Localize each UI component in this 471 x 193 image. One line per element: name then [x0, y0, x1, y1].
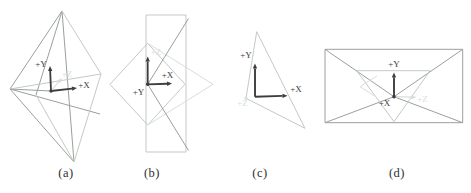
origin-dot	[146, 83, 150, 87]
caption-b: (b)	[122, 166, 182, 181]
panel-b: +X+Y+Z	[110, 15, 213, 152]
axis-arrowhead-icon	[167, 82, 172, 86]
wire-line	[148, 84, 213, 125]
panel-a: +Y+X+Z	[10, 11, 101, 162]
wire-line	[325, 49, 394, 96]
origin-dot	[392, 95, 396, 99]
axis-arrowhead-icon	[282, 94, 287, 98]
figure-canvas: +Y+X+Z +X+Y+Z +Y+X+Z +Y+X+Z (a) (b) (c) …	[0, 0, 471, 193]
axis-arrowhead-icon	[392, 73, 396, 78]
axis-label-x: +X	[290, 84, 302, 94]
wire-line	[10, 89, 74, 162]
axis-arrow-shaft	[255, 96, 283, 97]
axis-label-y: +Y	[388, 59, 400, 69]
axis-label-y: +Y	[35, 59, 47, 69]
panel-c: +Y+X+Z	[237, 32, 305, 129]
axis-arrow-shaft	[50, 71, 51, 91]
axis-label-z: +Z	[237, 98, 248, 108]
wire-line	[62, 11, 101, 74]
wire-line	[257, 32, 305, 129]
axis-arrowhead-icon	[411, 95, 416, 99]
axis-label-x: +X	[78, 80, 90, 90]
axis-arrowhead-icon	[253, 64, 257, 69]
wire-line	[10, 11, 62, 89]
axis-label-z: +Z	[151, 47, 162, 57]
caption-c: (c)	[230, 166, 290, 181]
wire-line	[360, 87, 377, 98]
wire-line	[62, 11, 74, 162]
wire-line	[246, 98, 305, 128]
axis-label-y: +Y	[240, 50, 252, 60]
subfigure-graphics: +Y+X+Z +X+Y+Z +Y+X+Z +Y+X+Z	[0, 0, 471, 193]
axis-label-y: +Y	[133, 87, 145, 97]
caption-a: (a)	[36, 166, 96, 181]
axis-arrow-shaft	[51, 89, 72, 91]
axis-label-z: +Z	[417, 94, 428, 104]
caption-d: (d)	[367, 166, 427, 181]
wire-line	[10, 89, 100, 114]
axis-label-z: +Z	[62, 69, 73, 79]
wire-line	[148, 84, 189, 150]
origin-dot	[49, 89, 52, 92]
axis-label-x: +X	[162, 70, 174, 80]
panel-d: +Y+X+Z	[325, 49, 463, 122]
axis-arrowhead-icon	[72, 86, 77, 90]
wire-line	[360, 76, 377, 87]
axis-label-x: +X	[379, 98, 391, 108]
wire-line	[110, 43, 148, 84]
axis-arrowhead-icon	[48, 66, 52, 71]
wire-line	[394, 97, 463, 123]
axis-arrow-shaft	[148, 84, 167, 85]
